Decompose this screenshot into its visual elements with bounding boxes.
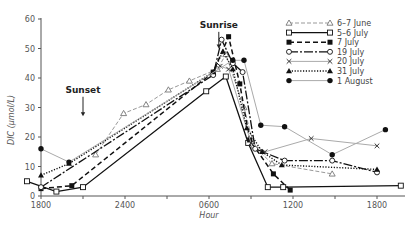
filled-triangle-marker-icon bbox=[220, 48, 226, 53]
legend-label: 20 July bbox=[337, 57, 364, 66]
filled-square-marker-icon bbox=[328, 40, 333, 45]
open-square-marker-icon bbox=[398, 183, 403, 188]
filled-circle-marker-icon bbox=[383, 127, 388, 132]
open-square-marker-icon bbox=[287, 30, 292, 35]
open-circle-marker-icon bbox=[240, 70, 245, 75]
annotation-sunrise: Sunrise bbox=[200, 20, 238, 30]
open-square-marker-icon bbox=[328, 30, 333, 35]
filled-square-marker-icon bbox=[287, 40, 292, 45]
y-axis-label: DIC (µmol/L) bbox=[7, 95, 16, 145]
x-tick-label: 2400 bbox=[115, 201, 135, 210]
filled-circle-marker-icon bbox=[258, 123, 263, 128]
filled-circle-marker-icon bbox=[66, 159, 71, 164]
legend-item: 7 July bbox=[287, 38, 360, 47]
filled-square-marker-icon bbox=[237, 81, 242, 86]
filled-triangle-marker-icon bbox=[374, 166, 380, 171]
legend-label: 6–7 June bbox=[337, 19, 371, 28]
legend-label: 1 August bbox=[337, 77, 373, 86]
legend-item: 20 July bbox=[287, 57, 365, 66]
open-circle-marker-icon bbox=[282, 158, 287, 163]
series-31-july bbox=[38, 48, 380, 177]
open-circle-marker-icon bbox=[219, 37, 224, 42]
filled-triangle-marker-icon bbox=[286, 68, 292, 73]
filled-circle-marker-icon bbox=[286, 78, 291, 83]
annotation-sunset: Sunset bbox=[65, 85, 101, 95]
open-circle-marker-icon bbox=[330, 158, 335, 163]
arrowhead-icon bbox=[217, 45, 221, 49]
legend-item: 5–6 July bbox=[287, 29, 369, 38]
legend-item: 6–7 June bbox=[286, 19, 371, 28]
arrowhead-icon bbox=[81, 112, 85, 116]
x-tick-label: 0600 bbox=[199, 201, 219, 210]
open-circle-marker-icon bbox=[287, 49, 292, 54]
filled-square-marker-icon bbox=[226, 34, 231, 39]
open-square-marker-icon bbox=[54, 189, 59, 194]
open-triangle-marker-icon bbox=[186, 78, 192, 83]
x-tick-label: 1200 bbox=[283, 201, 303, 210]
y-tick-label: 20 bbox=[25, 133, 35, 142]
filled-square-marker-icon bbox=[69, 183, 74, 188]
open-circle-marker-icon bbox=[328, 49, 333, 54]
y-tick-label: 10 bbox=[25, 163, 35, 172]
dic-line-chart: 010203040506018002400060012001800 Sunset… bbox=[0, 0, 410, 234]
y-tick-label: 0 bbox=[30, 192, 35, 201]
open-triangle-marker-icon bbox=[143, 102, 149, 107]
legend-item: 1 August bbox=[286, 77, 372, 86]
legend-item: 19 July bbox=[287, 48, 365, 57]
legend-label: 7 July bbox=[337, 38, 359, 47]
filled-circle-marker-icon bbox=[241, 58, 246, 63]
y-tick-label: 50 bbox=[25, 45, 35, 54]
legend-label: 31 July bbox=[337, 67, 364, 76]
open-circle-marker-icon bbox=[39, 185, 44, 190]
filled-square-marker-icon bbox=[288, 188, 293, 193]
open-square-marker-icon bbox=[204, 89, 209, 94]
open-square-marker-icon bbox=[265, 185, 270, 190]
filled-circle-marker-icon bbox=[282, 124, 287, 129]
x-tick-label: 1800 bbox=[367, 201, 387, 210]
open-square-marker-icon bbox=[25, 179, 30, 184]
filled-triangle-marker-icon bbox=[327, 68, 333, 73]
filled-circle-marker-icon bbox=[327, 78, 332, 83]
y-tick-label: 30 bbox=[25, 104, 35, 113]
x-tick-label: 1800 bbox=[31, 201, 51, 210]
filled-circle-marker-icon bbox=[230, 58, 235, 63]
series-line bbox=[41, 51, 377, 175]
series-7-july bbox=[39, 34, 293, 192]
series-line bbox=[41, 37, 290, 190]
legend-label: 5–6 July bbox=[337, 29, 368, 38]
legend-item: 31 July bbox=[286, 67, 364, 76]
chart-legend: 6–7 June5–6 July7 July19 July20 July31 J… bbox=[286, 19, 373, 86]
legend-label: 19 July bbox=[337, 48, 364, 57]
y-tick-label: 40 bbox=[25, 74, 35, 83]
filled-circle-marker-icon bbox=[330, 152, 335, 157]
x-axis-label: Hour bbox=[199, 211, 219, 220]
annotations: SunsetSunrise bbox=[65, 20, 237, 117]
filled-square-marker-icon bbox=[271, 171, 276, 176]
filled-circle-marker-icon bbox=[38, 146, 43, 151]
y-tick-label: 60 bbox=[25, 15, 35, 24]
filled-triangle-marker-icon bbox=[38, 172, 44, 177]
open-square-marker-icon bbox=[81, 185, 86, 190]
open-square-marker-icon bbox=[223, 74, 228, 79]
open-square-marker-icon bbox=[281, 185, 286, 190]
